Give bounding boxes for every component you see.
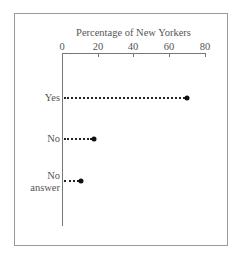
category-label-no-answer-line1: No (30, 170, 60, 182)
category-label-no: No (47, 133, 60, 145)
tick-label-60: 60 (164, 41, 175, 52)
tick-40 (133, 53, 134, 57)
axis-title: Percentage of New Yorkers (62, 27, 205, 38)
tick-label-80: 80 (200, 41, 211, 52)
tick-label-0: 0 (59, 41, 64, 52)
tick-label-20: 20 (93, 41, 104, 52)
tick-60 (169, 53, 170, 57)
dot-leader-yes (64, 97, 185, 99)
x-axis (62, 53, 206, 54)
category-label-yes: Yes (45, 92, 60, 104)
dot-leader-no-answer (64, 180, 79, 182)
category-label-no-answer: No answer (30, 170, 60, 194)
y-axis (62, 53, 63, 226)
dot-leader-no (64, 138, 92, 140)
tick-80 (205, 53, 206, 57)
chart-frame (14, 13, 228, 246)
data-point-no-answer (79, 179, 84, 184)
tick-20 (98, 53, 99, 57)
category-label-no-answer-line2: answer (30, 182, 60, 194)
data-point-no (92, 137, 97, 142)
tick-label-40: 40 (128, 41, 139, 52)
data-point-yes (185, 96, 190, 101)
